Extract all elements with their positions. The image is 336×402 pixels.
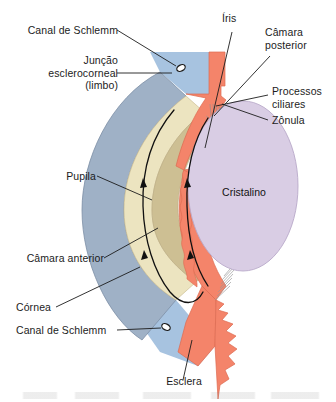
leader-canal-schlemm-top — [117, 30, 176, 66]
label-esclera: Esclera — [154, 375, 214, 388]
eye-anatomy-figure: Canal de Schlemm Junção esclerocorneal (… — [0, 0, 336, 402]
label-canal-de-schlemm-bottom: Canal de Schlemm — [16, 324, 124, 337]
label-juncao-esclerocorneal: Junção esclerocorneal (limbo) — [4, 54, 118, 92]
label-camara-posterior: Câmara posterior — [265, 26, 335, 51]
ciliary-processes-jagged-edge — [215, 300, 237, 399]
label-cristalino: Cristalino — [209, 186, 279, 198]
page-caption-fragment — [22, 392, 322, 399]
label-pupila: Pupila — [14, 170, 96, 183]
label-zonula: Zônula — [272, 114, 334, 127]
label-camara-anterior: Câmara anterior — [4, 252, 104, 265]
label-cornea: Córnea — [16, 301, 96, 314]
label-canal-de-schlemm-top: Canal de Schlemm — [4, 24, 118, 37]
label-processos-ciliares: Processos ciliares — [272, 85, 336, 110]
label-iris: Íris — [222, 12, 262, 25]
